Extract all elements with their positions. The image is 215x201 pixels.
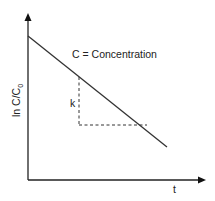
first-order-kinetics-diagram: C = Concentration k t ln C/C0 [0, 0, 215, 201]
x-axis-label: t [173, 183, 176, 195]
y-axis-label: ln C/C0 [10, 84, 24, 117]
diagram-svg: C = Concentration k t ln C/C0 [0, 0, 215, 201]
concentration-note: C = Concentration [72, 48, 157, 60]
slope-label: k [70, 97, 76, 109]
x-axis-arrow-icon [198, 177, 206, 184]
y-axis-label-group: ln C/C0 [10, 84, 24, 117]
y-axis-arrow-icon [25, 13, 32, 21]
